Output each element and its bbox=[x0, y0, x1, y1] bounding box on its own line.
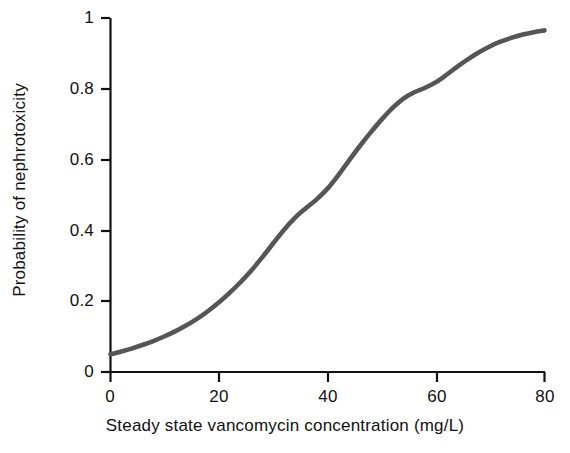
x-tick-label-80: 80 bbox=[535, 387, 554, 407]
chart-figure: 1 0.8 0.6 0.4 0.2 0 0 20 40 60 80 Steady… bbox=[0, 0, 570, 453]
x-tick-label-60: 60 bbox=[427, 387, 446, 407]
data-series-curve bbox=[111, 30, 545, 354]
y-axis-label-wrapper: Probability of nephrotoxicity bbox=[0, 0, 34, 400]
x-axis-ticks bbox=[111, 372, 545, 382]
y-tick-label-0-8: 0.8 bbox=[46, 79, 94, 99]
axes-group bbox=[101, 18, 545, 382]
x-tick-label-20: 20 bbox=[209, 387, 228, 407]
x-axis-label: Steady state vancomycin concentration (m… bbox=[0, 416, 570, 436]
y-tick-label-0-4: 0.4 bbox=[46, 221, 94, 241]
y-tick-label-0-2: 0.2 bbox=[46, 291, 94, 311]
y-tick-label-0: 0 bbox=[60, 362, 94, 382]
y-tick-label-1: 1 bbox=[60, 8, 94, 28]
x-tick-label-40: 40 bbox=[318, 387, 337, 407]
y-axis-label: Probability of nephrotoxicity bbox=[10, 20, 30, 360]
y-axis-ticks bbox=[101, 18, 110, 372]
x-tick-label-0: 0 bbox=[105, 387, 115, 407]
y-tick-label-0-6: 0.6 bbox=[46, 150, 94, 170]
